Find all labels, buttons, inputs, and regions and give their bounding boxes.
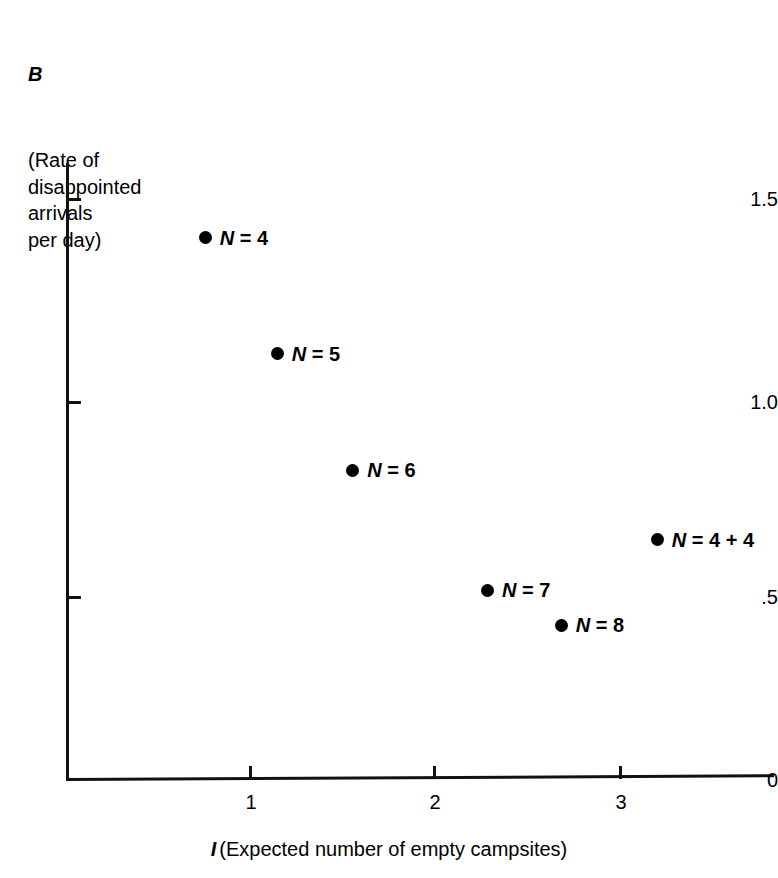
x-axis-description-label: (Expected number of empty campsites) — [219, 838, 567, 860]
data-point-n-7 — [481, 584, 494, 597]
data-point-label-variable: N — [220, 227, 234, 249]
x-axis-line — [66, 774, 774, 781]
data-point-label-variable: N — [672, 529, 686, 551]
data-point-label-value: = 4 + 4 — [686, 529, 754, 551]
data-point-label-3: N = 6 — [367, 460, 415, 480]
y-axis-tick-label-1.5: 1.5 — [726, 189, 778, 209]
data-point-label-2: N = 5 — [292, 344, 340, 364]
data-point-label-4: N = 4 + 4 — [672, 530, 754, 550]
data-point-n-6 — [346, 464, 359, 477]
y-axis-tick-1.0 — [69, 401, 81, 404]
data-point-label-value: = 7 — [516, 579, 550, 601]
y-axis-line — [66, 163, 69, 781]
data-point-label-5: N = 7 — [502, 580, 550, 600]
y-axis-title: B (Rate of disappointed arrivals per day… — [28, 6, 208, 309]
scatter-plot-figure: B (Rate of disappointed arrivals per day… — [0, 0, 778, 878]
x-axis-tick-1 — [249, 766, 252, 779]
x-axis-tick-label-3: 3 — [601, 792, 641, 812]
x-axis-tick-label-2: 2 — [415, 792, 455, 812]
y-axis-description-label: (Rate of disappointed arrivals per day) — [28, 147, 208, 253]
data-point-label-6: N = 8 — [576, 615, 624, 635]
data-point-n-5 — [271, 347, 284, 360]
x-axis-symbol-label: I — [211, 838, 217, 860]
data-point-n-8 — [555, 619, 568, 632]
data-point-n-4-+-4 — [651, 533, 664, 546]
y-axis-tick-label-1.0: 1.0 — [726, 392, 778, 412]
y-axis-symbol-label: B — [28, 61, 208, 89]
data-point-label-value: = 6 — [382, 459, 416, 481]
y-axis-tick-1.5 — [69, 198, 81, 201]
data-point-label-value: = 8 — [590, 614, 624, 636]
data-point-label-variable: N — [576, 614, 590, 636]
data-point-n-4 — [199, 231, 212, 244]
y-axis-tick-label-0: 0 — [726, 770, 778, 790]
x-axis-tick-3 — [619, 766, 622, 779]
x-axis-tick-label-1: 1 — [231, 792, 271, 812]
x-axis-tick-2 — [433, 766, 436, 779]
y-axis-tick-0.5 — [69, 596, 81, 599]
data-point-label-variable: N — [292, 343, 306, 365]
x-axis-title: I(Expected number of empty campsites) — [0, 838, 778, 861]
data-point-label-variable: N — [367, 459, 381, 481]
data-point-label-1: N = 4 — [220, 228, 268, 248]
y-axis-tick-label-0.5: .5 — [726, 587, 778, 607]
data-point-label-variable: N — [502, 579, 516, 601]
data-point-label-value: = 4 — [234, 227, 268, 249]
data-point-label-value: = 5 — [306, 343, 340, 365]
